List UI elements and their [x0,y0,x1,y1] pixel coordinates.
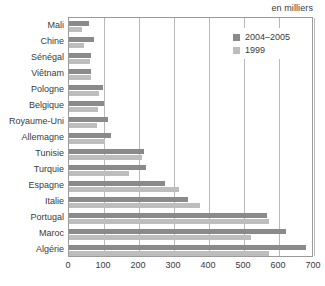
legend-item[interactable]: 1999 [233,45,306,55]
bar [69,149,144,154]
y-axis-tick-label: Algérie [0,244,64,254]
bar [69,123,97,128]
legend-item[interactable]: 2004–2005 [233,32,306,42]
bar [69,165,146,170]
y-axis-tick-label: Tunisie [0,148,64,158]
bar-row [69,210,312,226]
legend: 2004–20051999 [228,28,310,59]
y-axis-tick-label: Turquie [0,164,64,174]
bar [69,27,82,32]
bar [69,187,179,192]
bar-row [69,114,312,130]
bar-row [69,226,312,242]
legend-label: 2004–2005 [245,32,290,42]
bar-row [69,194,312,210]
x-axis-tick-label: 600 [270,260,285,270]
bar [69,75,91,80]
y-axis-tick-label: Royaume-Uni [0,116,64,126]
y-axis-labels: MaliChineSénégalViêtnamPologneBelgiqueRo… [0,17,64,257]
bar [69,37,94,42]
y-axis-tick-label: Portugal [0,212,64,222]
bar [69,197,188,202]
bar [69,91,99,96]
x-axis-tick-label: 300 [165,260,180,270]
bar [69,229,286,234]
bar [69,155,142,160]
y-axis-tick-label: Espagne [0,180,64,190]
bar [69,235,251,240]
legend-swatch-icon [233,47,240,54]
bar [69,133,111,138]
bar [69,219,269,224]
bar [69,101,104,106]
bar [69,53,91,58]
bar-row [69,162,312,178]
bar [69,21,89,26]
x-axis-tick-label: 500 [235,260,250,270]
y-axis-tick-label: Pologne [0,84,64,94]
bar [69,117,108,122]
bar [69,139,105,144]
bar [69,59,90,64]
bar [69,85,103,90]
y-axis-tick-label: Maroc [0,228,64,238]
gridline [314,18,315,256]
y-axis-tick-label: Allemagne [0,132,64,142]
y-axis-tick-label: Chine [0,36,64,46]
bar-row [69,82,312,98]
legend-swatch-icon [233,34,240,41]
bar [69,171,129,176]
x-axis-tick-label: 0 [65,260,70,270]
unit-note: en milliers [271,3,313,13]
x-axis-labels: 0100200300400500600700 [68,260,313,274]
x-axis-tick-label: 200 [130,260,145,270]
bar-row [69,242,312,258]
bar [69,213,267,218]
chart-figure: en milliers MaliChineSénégalViêtnamPolog… [0,0,325,286]
bar [69,245,306,250]
x-axis-tick-label: 700 [305,260,320,270]
bar [69,181,165,186]
bar-row [69,130,312,146]
bar [69,69,91,74]
x-axis-tick-label: 100 [95,260,110,270]
y-axis-tick-label: Mali [0,20,64,30]
y-axis-tick-label: Sénégal [0,52,64,62]
y-axis-tick-label: Belgique [0,100,64,110]
bar [69,107,98,112]
bar-row [69,146,312,162]
bar [69,203,200,208]
y-axis-tick-label: Viêtnam [0,68,64,78]
legend-label: 1999 [245,45,265,55]
bar [69,43,84,48]
bar-row [69,178,312,194]
y-axis-tick-label: Italie [0,196,64,206]
bar [69,251,269,256]
bar-row [69,98,312,114]
x-axis-tick-label: 400 [200,260,215,270]
bar-row [69,66,312,82]
